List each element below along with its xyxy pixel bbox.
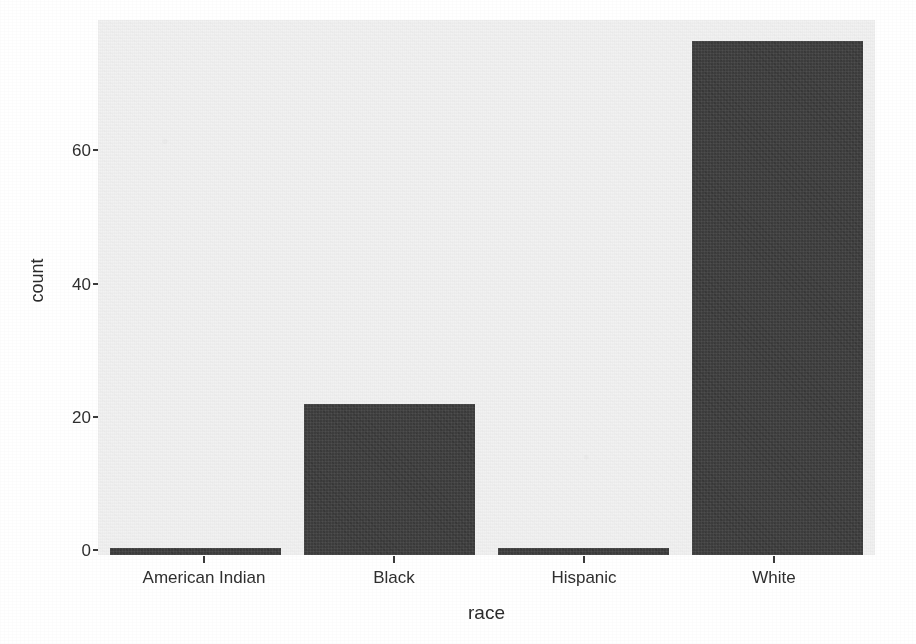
y-tick-mark: [93, 416, 98, 418]
y-tick-mark: [93, 549, 98, 551]
x-tick-mark: [393, 556, 395, 563]
bar-hispanic[interactable]: [498, 548, 669, 555]
plot-panel: [98, 20, 875, 555]
y-tick-mark: [93, 149, 98, 151]
bar-texture: [110, 548, 281, 555]
bar-black[interactable]: [304, 404, 475, 555]
x-tick-mark: [583, 556, 585, 563]
bar-texture: [692, 41, 863, 555]
bar-white[interactable]: [692, 41, 863, 555]
x-tick-mark: [773, 556, 775, 563]
x-axis-title: race: [98, 602, 875, 624]
bar-texture: [498, 548, 669, 555]
chart-figure: 0 20 40 60 count American Indian Black H…: [0, 0, 916, 644]
y-tick-mark: [93, 283, 98, 285]
x-tick-label: White: [634, 568, 914, 588]
bar-american-indian[interactable]: [110, 548, 281, 555]
bar-texture: [304, 404, 475, 555]
y-axis-title: count: [27, 226, 48, 336]
x-tick-mark: [203, 556, 205, 563]
